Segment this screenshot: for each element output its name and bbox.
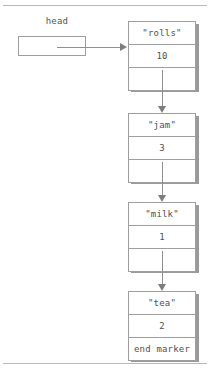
link-line-jam-milk [162,162,163,195]
node-value-cell: "jam" [129,114,195,137]
node-tea: "tea" 2 end marker [128,291,196,361]
bottom-divider [3,363,207,364]
node-count-cell: 10 [129,45,195,68]
head-label: head [18,16,96,27]
node-count-cell: 2 [129,315,195,338]
head-arrow-line [57,47,125,48]
link-arrow-head-milk-tea-icon [158,284,166,291]
node-count-cell: 1 [129,226,195,249]
linked-list-diagram: { "diagram": { "kind": "singly-linked-li… [0,0,210,370]
node-value-cell: "rolls" [129,22,195,45]
top-divider [3,5,207,6]
link-line-milk-tea [162,251,163,284]
head-arrow-head-icon [120,43,127,51]
link-arrow-head-jam-milk-icon [158,195,166,202]
node-count-cell: 3 [129,137,195,160]
node-end-marker-cell: end marker [129,338,195,360]
node-value-cell: "tea" [129,292,195,315]
node-value-cell: "milk" [129,203,195,226]
link-arrow-head-rolls-jam-icon [158,106,166,113]
head-pointer-box [18,36,86,56]
link-line-rolls-jam [162,70,163,106]
